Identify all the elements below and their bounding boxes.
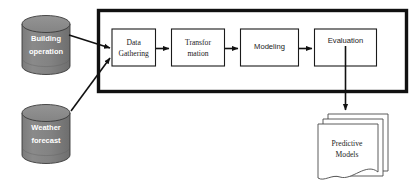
transformation-label-line1: Transfor (185, 38, 211, 47)
workflow-diagram: Building operation Weather forecast Data… (0, 0, 415, 194)
data-source-weather-forecast: Weather forecast (22, 105, 70, 164)
predictive-models-label-line1: Predictive (332, 139, 363, 148)
weather-forecast-label-line2: forecast (31, 136, 61, 145)
weather-forecast-label-line1: Weather (31, 123, 61, 132)
arrow-building-to-gathering (69, 35, 110, 48)
data-source-building-operation: Building operation (22, 16, 70, 75)
cylinder-top-ellipse (22, 16, 70, 33)
process-step-transformation: Transfor mation (172, 29, 225, 66)
building-operation-label-line2: operation (29, 47, 64, 56)
process-step-modeling: Modeling (241, 29, 299, 66)
data-gathering-label-line1: Data (127, 38, 142, 47)
step-box (172, 29, 225, 66)
modeling-label: Modeling (254, 42, 285, 51)
cylinder-top-ellipse (22, 105, 70, 122)
evaluation-label: Evaluation (328, 36, 363, 45)
diagram-canvas: Building operation Weather forecast Data… (0, 0, 415, 194)
data-gathering-label-line2: Gathering (119, 49, 150, 58)
building-operation-label-line1: Building (31, 34, 61, 43)
predictive-models-label-line2: Models (336, 150, 359, 159)
step-box (112, 29, 156, 66)
transformation-label-line2: mation (187, 49, 208, 58)
output-predictive-models: Predictive Models (318, 114, 388, 179)
arrow-weather-to-gathering (71, 58, 110, 111)
process-step-data-gathering: Data Gathering (112, 29, 156, 66)
